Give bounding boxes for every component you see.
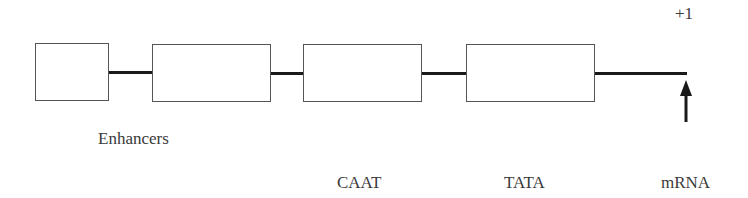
- mrna-start-site-label: mRNA start site: [661, 128, 710, 198]
- caat-box-label: CAAT box: [337, 128, 381, 198]
- caat-label-line: CAAT: [337, 172, 381, 194]
- enhancers-label: Enhancers: [98, 128, 169, 150]
- tata-box-label: TATA box: [504, 128, 545, 198]
- tata-label-line: TATA: [504, 172, 545, 194]
- start-marker-label: +1: [675, 3, 693, 25]
- mrna-label-line: mRNA: [661, 172, 710, 194]
